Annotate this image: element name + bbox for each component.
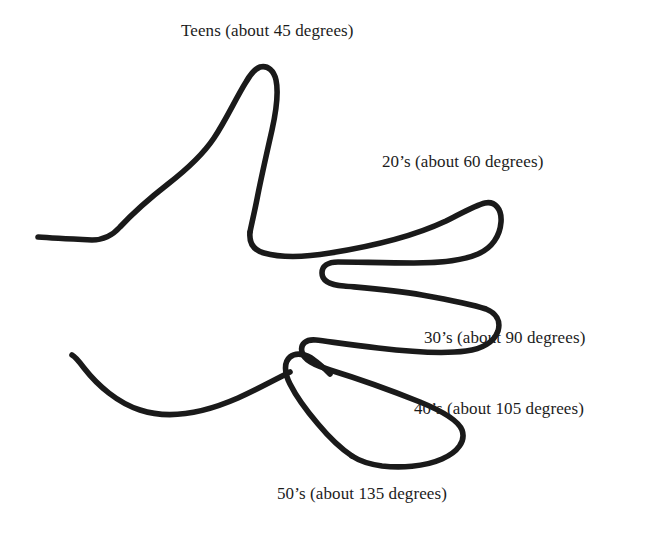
label-forties: 40’s (about 105 degrees)	[414, 400, 584, 419]
thumb-stroke	[38, 67, 277, 240]
hand-diagram-figure: Teens (about 45 degrees) 20’s (about 60 …	[0, 0, 668, 533]
label-fifties: 50’s (about 135 degrees)	[277, 485, 447, 504]
label-teens: Teens (about 45 degrees)	[181, 22, 354, 41]
hand-outline-drawing	[0, 0, 668, 533]
label-twenties: 20’s (about 60 degrees)	[382, 153, 543, 172]
label-thirties: 30’s (about 90 degrees)	[424, 329, 585, 348]
pinky-and-palm-stroke	[72, 354, 352, 456]
